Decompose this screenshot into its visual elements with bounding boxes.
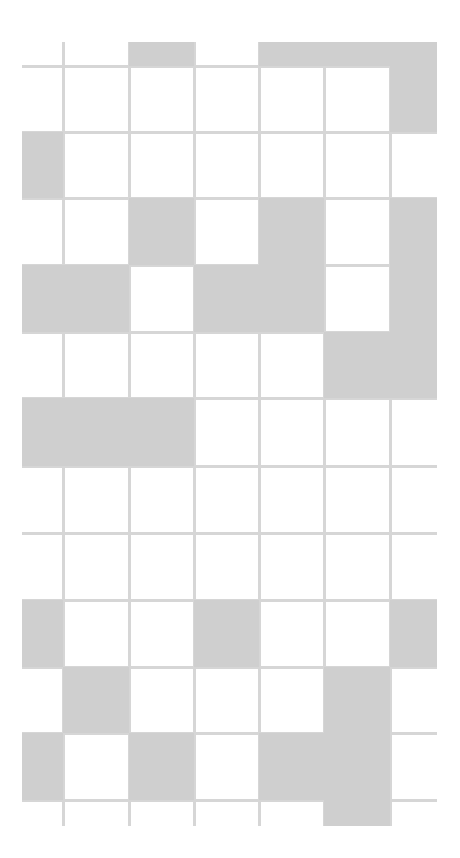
shaded-cell bbox=[390, 265, 437, 332]
shaded-cell bbox=[324, 667, 390, 733]
shaded-cell bbox=[324, 733, 390, 800]
shaded-cell bbox=[22, 733, 63, 800]
shaded-cell bbox=[194, 600, 259, 667]
shaded-cell bbox=[259, 42, 324, 66]
grid-pattern bbox=[0, 0, 460, 858]
grid-line-horizontal bbox=[22, 131, 437, 134]
shaded-cell bbox=[390, 66, 437, 132]
shaded-cell bbox=[129, 733, 194, 800]
shaded-cell bbox=[259, 265, 324, 332]
shaded-cell bbox=[129, 42, 194, 66]
shaded-cell bbox=[22, 398, 63, 466]
shaded-cell bbox=[390, 198, 437, 265]
shaded-cell bbox=[22, 600, 63, 667]
shaded-cell bbox=[390, 42, 437, 66]
shaded-cell bbox=[63, 265, 129, 332]
shaded-cell bbox=[129, 198, 194, 265]
shaded-cell bbox=[22, 265, 63, 332]
shaded-cell bbox=[259, 198, 324, 265]
shaded-cell bbox=[194, 265, 259, 332]
shaded-cell bbox=[63, 667, 129, 733]
shaded-cell bbox=[390, 332, 437, 398]
grid-line-vertical bbox=[258, 42, 261, 826]
grid-line-horizontal bbox=[22, 197, 437, 200]
shaded-cell bbox=[324, 800, 390, 826]
shaded-cell bbox=[129, 398, 194, 466]
shaded-cell bbox=[390, 600, 437, 667]
shaded-cell bbox=[22, 132, 63, 198]
shaded-cell bbox=[324, 332, 390, 398]
grid-line-horizontal bbox=[22, 532, 437, 535]
shaded-cell bbox=[259, 733, 324, 800]
shaded-cell bbox=[324, 42, 390, 66]
shaded-cell bbox=[63, 398, 129, 466]
